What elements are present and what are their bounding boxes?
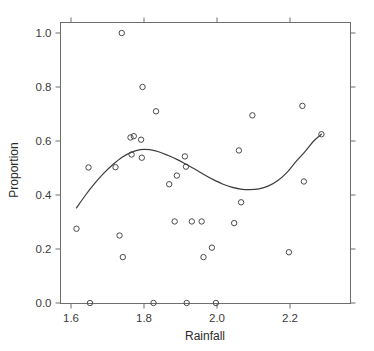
y-tick-label: 0.4 [36,189,53,201]
y-tick-label: 1.0 [36,27,52,39]
scatter-plot-figure: 1.61.82.02.2 0.00.20.40.60.81.0 Rainfall… [0,0,374,351]
y-tick-label: 0.2 [36,243,52,255]
x-tick-label: 2.0 [209,312,225,324]
figure-background [0,0,374,351]
x-axis-title: Rainfall [185,329,225,343]
y-tick-label: 0.8 [36,81,52,93]
y-tick-label: 0.0 [36,297,52,309]
y-tick-label: 0.6 [36,135,52,147]
y-axis-title: Proportion [7,142,21,197]
x-tick-label: 2.2 [282,312,298,324]
x-tick-label: 1.6 [63,312,79,324]
x-tick-label: 1.8 [136,312,152,324]
plot-canvas: 1.61.82.02.2 0.00.20.40.60.81.0 Rainfall… [0,0,374,351]
